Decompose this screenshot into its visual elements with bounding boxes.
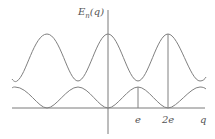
y-axis-label: En(q) xyxy=(78,7,104,20)
diagram-canvas xyxy=(0,0,215,139)
upper-band-curve xyxy=(12,34,206,82)
x-axis-label: q xyxy=(200,115,206,125)
tick-label-2e: 2e xyxy=(162,115,174,125)
y-axis-label-arg: (q) xyxy=(90,6,104,17)
band-structure-diagram: En(q) e 2e q xyxy=(0,0,215,139)
lower-band-curve xyxy=(12,87,206,108)
tick-label-e: e xyxy=(135,115,141,125)
